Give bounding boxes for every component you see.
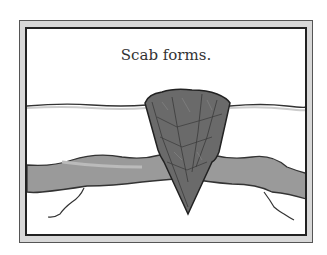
picture-frame-inner: Scab forms. xyxy=(25,27,307,236)
vessel-branch-left xyxy=(48,188,84,217)
skin-surface-line xyxy=(27,104,147,106)
vessel-branch-right xyxy=(264,192,294,220)
wound-illustration xyxy=(27,29,307,236)
